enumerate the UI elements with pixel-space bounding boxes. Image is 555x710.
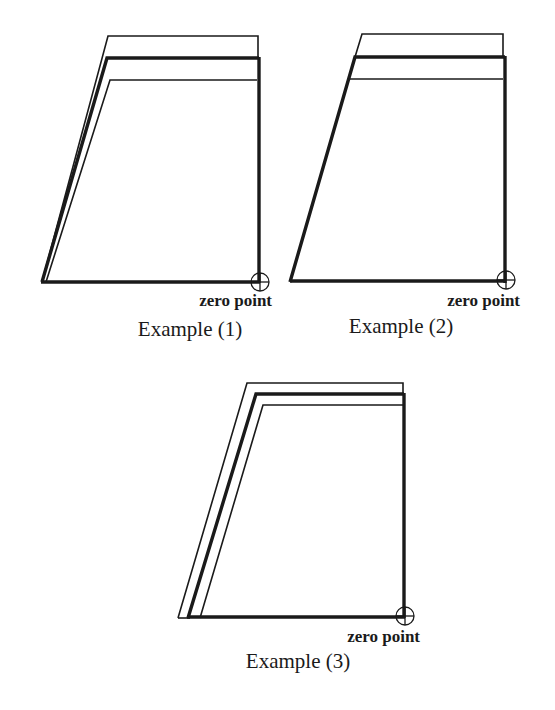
example-2-zero-point-label: zero point [447, 291, 520, 310]
example-3-caption: Example (3) [246, 649, 350, 673]
zero-point-icon [497, 271, 515, 289]
example-1-caption: Example (1) [138, 317, 242, 341]
example-1-zero-point-label: zero point [199, 291, 272, 310]
zero-point-icon [251, 273, 269, 291]
example-2-caption: Example (2) [349, 314, 453, 338]
diagram-canvas: zero point Example (1) zero point Exampl… [0, 0, 555, 710]
example-3-zero-point-label: zero point [347, 627, 420, 646]
zero-point-icon [396, 607, 414, 625]
